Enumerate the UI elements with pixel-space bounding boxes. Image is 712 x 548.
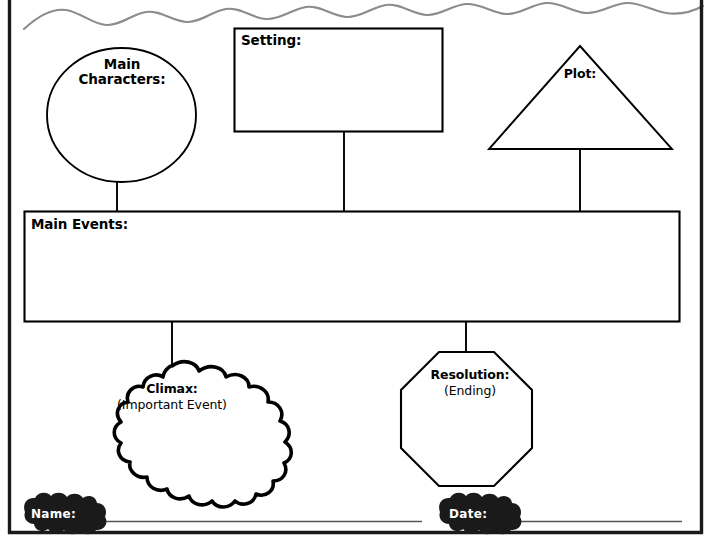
story-map-worksheet: Main Characters: Setting: Plot: Main Eve… [0,0,712,548]
resolution-label: Resolution: [407,368,533,382]
date-label: Date: [449,507,487,521]
wavy-top-border-icon [24,3,703,29]
main-events-rectangle [25,212,680,322]
climax-label: Climax: [102,382,242,396]
plot-triangle [489,46,672,149]
date-pill-shape [439,493,521,535]
main-characters-ellipse [47,48,196,182]
main-characters-label-line1: Main [47,57,197,72]
setting-rectangle [235,29,443,132]
main-events-label: Main Events: [31,217,291,232]
setting-label: Setting: [241,33,431,48]
main-characters-label: Main Characters: [47,57,197,87]
name-label: Name: [31,507,76,521]
climax-sublabel: (Important Event) [92,398,252,412]
plot-label: Plot: [540,67,620,81]
worksheet-graphics [0,0,712,548]
climax-cloud [114,362,291,507]
resolution-octagon [401,352,532,486]
main-characters-label-line2: Characters: [47,72,197,87]
name-pill-shape [24,493,106,535]
resolution-sublabel: (Ending) [407,384,533,398]
